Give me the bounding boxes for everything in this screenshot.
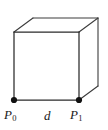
label-p0: P0 bbox=[4, 108, 16, 123]
cube-figure: P0 d P1 bbox=[0, 0, 108, 130]
label-p0-subscript: 0 bbox=[12, 113, 16, 123]
vertex-dot-p1 bbox=[76, 97, 82, 103]
cube-edge-depth-top-left bbox=[14, 18, 33, 32]
label-p0-base: P bbox=[4, 107, 12, 122]
label-p1: P1 bbox=[70, 108, 82, 123]
cube-edge-depth-bottom-right bbox=[79, 86, 98, 100]
label-p1-base: P bbox=[70, 107, 78, 122]
cube-front-face bbox=[14, 32, 79, 100]
vertex-dot-p0 bbox=[11, 97, 17, 103]
label-distance-d: d bbox=[44, 109, 51, 122]
label-p1-subscript: 1 bbox=[78, 113, 82, 123]
